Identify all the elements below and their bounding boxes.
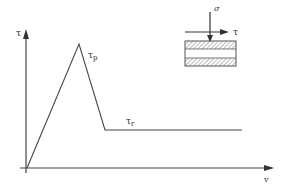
svg-text:τp: τp [88,50,98,62]
x-axis: v [20,165,274,184]
residual-sub: r [131,120,135,128]
peak-stress-label: τp [88,50,98,62]
normal-load-label: σ [214,4,220,13]
x-axis-arrow-icon [264,165,274,171]
peak-sub: p [93,54,98,62]
svg-text:τr: τr [126,116,135,128]
specimen-bottom-hatch [185,58,236,66]
shear-arrow-icon [220,29,229,35]
shear-label: τ [233,27,238,37]
shear-specimen: σ τ [185,4,238,66]
shear-displacement-diagram: τ v τp τr σ τ [0,0,287,191]
x-axis-label: v [263,175,269,184]
specimen-top-hatch [185,41,236,49]
y-axis-arrow-icon [23,29,29,39]
residual-stress-label: τr [126,116,135,128]
y-axis: τ [16,28,29,173]
y-axis-label: τ [16,28,21,38]
